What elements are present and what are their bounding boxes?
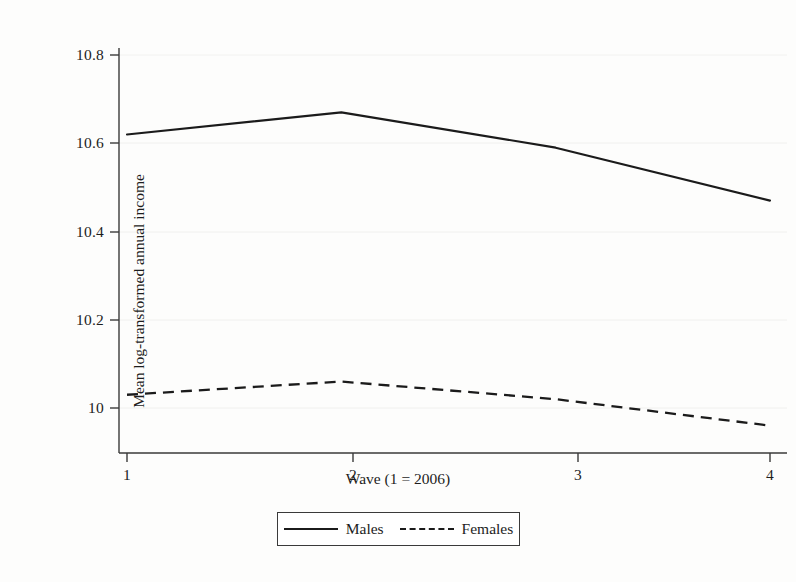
y-tick-label-3: 10.2 xyxy=(58,311,104,329)
legend-swatch-dashed-icon xyxy=(400,528,454,530)
gridlines xyxy=(119,55,787,408)
y-tick-label-4: 10 xyxy=(58,399,104,417)
y-axis-title: Mean log-transformed annual income xyxy=(130,174,148,408)
axis-spines xyxy=(119,48,787,453)
x-tick-label-1: 2 xyxy=(349,466,357,484)
y-tick-label-1: 10.6 xyxy=(58,134,104,152)
legend-swatch-solid-icon xyxy=(284,528,338,530)
x-axis-ticks xyxy=(127,453,770,462)
x-tick-label-2: 3 xyxy=(574,466,582,484)
chart-figure: Mean log-transformed annual income Wave … xyxy=(0,0,796,582)
legend-entry-males: Males xyxy=(284,521,384,537)
x-tick-label-0: 1 xyxy=(123,466,131,484)
chart-legend: Males Females xyxy=(277,512,520,546)
y-tick-label-2: 10.4 xyxy=(58,223,104,241)
legend-label-females: Females xyxy=(462,521,514,537)
series-line-females xyxy=(127,382,770,426)
x-axis-title: Wave (1 = 2006) xyxy=(0,470,796,488)
y-axis-ticks xyxy=(110,55,119,408)
legend-label-males: Males xyxy=(346,521,384,537)
x-tick-label-3: 4 xyxy=(766,466,774,484)
line-chart-canvas xyxy=(0,0,796,582)
y-tick-label-0: 10.8 xyxy=(58,46,104,64)
series-line-males xyxy=(127,112,770,200)
legend-entry-females: Females xyxy=(400,521,514,537)
